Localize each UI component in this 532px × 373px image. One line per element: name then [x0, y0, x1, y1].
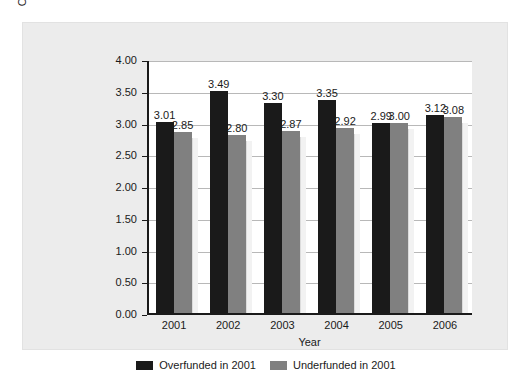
chart-legend: Overfunded in 2001Underfunded in 2001 — [23, 359, 509, 371]
y-axis-tick-label: 4.00 — [116, 54, 137, 66]
x-axis-tick-label: 2004 — [310, 319, 364, 331]
bar-value-label: 3.30 — [256, 90, 290, 102]
bar-value-label: 2.80 — [220, 122, 254, 134]
bar-group: 3.352.92 — [318, 61, 359, 313]
legend-label: Overfunded in 2001 — [159, 359, 256, 371]
bar-group: 3.302.87 — [264, 61, 305, 313]
chart-panel: Operating Cash Flow per Common Share 4.0… — [22, 22, 508, 350]
bar-value-label: 2.87 — [274, 118, 308, 130]
bar-shadow — [300, 137, 306, 313]
bar-value-label: 2.85 — [166, 119, 200, 131]
bar — [282, 131, 300, 313]
bar-value-label: 2.92 — [328, 115, 362, 127]
bar-value-label: 3.08 — [436, 104, 470, 116]
bar-shadow — [408, 129, 414, 314]
bar-group: 3.012.85 — [156, 61, 197, 313]
bar — [390, 123, 408, 314]
y-axis-title: Operating Cash Flow per Common Share — [16, 0, 28, 45]
legend-entry: Overfunded in 2001 — [136, 359, 256, 371]
x-axis-tick-label: 2002 — [201, 319, 255, 331]
y-axis-tick-label: 1.00 — [116, 245, 137, 257]
y-axis-tick-label: 2.50 — [116, 149, 137, 161]
bar-group: 3.492.80 — [210, 61, 251, 313]
y-axis-tick-mark — [142, 315, 147, 316]
legend-swatch-icon — [270, 361, 287, 370]
y-axis-tick-label: 2.00 — [116, 181, 137, 193]
bar-group: 2.993.00 — [372, 61, 413, 313]
chart-screenshot: Operating Cash Flow per Common Share 4.0… — [0, 0, 532, 373]
bar-shadow — [192, 138, 198, 313]
x-axis-tick-label: 2006 — [418, 319, 472, 331]
x-axis-tick-label: 2001 — [147, 319, 201, 331]
legend-swatch-icon — [136, 361, 153, 370]
bar — [318, 100, 336, 313]
bar — [264, 103, 282, 313]
y-axis-tick-label: 3.50 — [116, 86, 137, 98]
y-axis-tick-label: 1.50 — [116, 213, 137, 225]
bar-value-label: 3.49 — [202, 78, 236, 90]
y-axis-tick-label: 0.50 — [116, 276, 137, 288]
bar-shadow — [246, 141, 252, 313]
legend-entry: Underfunded in 2001 — [270, 359, 396, 371]
y-axis-tick-label: 0.00 — [116, 308, 137, 320]
bar — [444, 117, 462, 313]
bar — [156, 122, 174, 313]
bar — [372, 123, 390, 313]
bar — [336, 128, 354, 313]
x-axis-tick-label: 2003 — [255, 319, 309, 331]
bar-value-label: 3.00 — [382, 110, 416, 122]
bar — [426, 115, 444, 313]
bar-shadow — [354, 134, 360, 313]
bar-group: 3.123.08 — [426, 61, 467, 313]
y-axis-tick-label: 3.00 — [116, 118, 137, 130]
x-axis-tick-label: 2005 — [364, 319, 418, 331]
legend-label: Underfunded in 2001 — [293, 359, 396, 371]
bar-value-label: 3.35 — [310, 87, 344, 99]
x-axis-title: Year — [147, 336, 472, 348]
plot-area: 3.012.853.492.803.302.873.352.922.993.00… — [147, 61, 472, 315]
bar-groups: 3.012.853.492.803.302.873.352.922.993.00… — [149, 61, 472, 313]
bar-shadow — [462, 123, 468, 313]
bar — [228, 135, 246, 313]
bar — [174, 132, 192, 313]
